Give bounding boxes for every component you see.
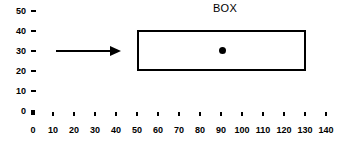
y-tick-mark-0 (31, 110, 35, 115)
y-tick-label-50: 50 (4, 7, 26, 16)
page-title: BOX (195, 2, 255, 14)
x-tick-mark-40 (115, 112, 117, 116)
x-tick-mark-110 (262, 112, 264, 116)
y-tick-mark-30 (31, 50, 36, 52)
x-tick-label-140: 140 (314, 126, 338, 135)
x-tick-mark-30 (94, 112, 96, 116)
x-tick-mark-60 (157, 112, 159, 116)
x-tick-mark-10 (52, 112, 54, 116)
x-tick-mark-70 (178, 112, 180, 116)
y-tick-label-40: 40 (4, 27, 26, 36)
x-tick-mark-80 (199, 112, 201, 116)
y-tick-mark-40 (31, 30, 36, 32)
x-tick-mark-50 (136, 112, 138, 116)
y-tick-label-20: 20 (4, 67, 26, 76)
y-tick-label-0: 0 (4, 107, 26, 116)
y-tick-mark-10 (31, 90, 36, 92)
center-point-marker (219, 47, 226, 54)
x-tick-mark-130 (304, 112, 306, 116)
y-tick-mark-50 (31, 10, 36, 12)
x-tick-mark-140 (325, 112, 327, 116)
y-tick-label-30: 30 (4, 47, 26, 56)
x-tick-mark-20 (73, 112, 75, 116)
x-tick-mark-90 (220, 112, 222, 116)
figure-canvas: BOX 50 40 30 20 10 0 0 10 20 30 40 50 60… (0, 0, 340, 143)
y-tick-label-10: 10 (4, 87, 26, 96)
force-arrow-line (56, 50, 111, 52)
x-tick-mark-120 (283, 112, 285, 116)
x-tick-mark-100 (241, 112, 243, 116)
force-arrow-head (110, 46, 121, 56)
y-tick-mark-20 (31, 70, 36, 72)
